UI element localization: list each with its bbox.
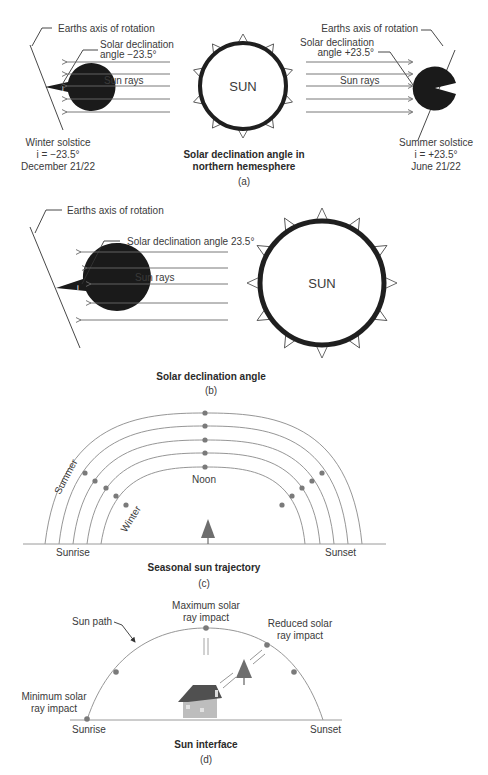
summer-solstice-caption-1: Summer solstice: [399, 137, 473, 148]
axis-leader-b: [35, 210, 62, 233]
max-impact-label-1: Maximum solar: [172, 600, 240, 611]
panel-d-title: Sun interface: [174, 739, 238, 750]
axis-leader-left: [32, 28, 52, 46]
axis-label-right: Earths axis of rotation: [321, 23, 418, 34]
sun-rays-label-left: Sun rays: [104, 75, 143, 86]
declination-leader-right: [378, 52, 413, 85]
sun-a: SUN: [192, 34, 294, 138]
panel-a-sublabel: (a): [238, 176, 250, 187]
earth-summer: [413, 50, 456, 140]
sun-label-a: SUN: [229, 79, 256, 94]
sun-path-label: Sun path: [72, 616, 112, 627]
summer-solstice-caption-2: i = +23.5°: [415, 149, 458, 160]
axis-label-left: Earths axis of rotation: [58, 23, 155, 34]
noon-label: Noon: [192, 474, 216, 485]
panel-c: Summer Winter Noon Sunrise Sunset Season…: [23, 410, 386, 589]
reduced-impact-label-1: Reduced solar: [268, 618, 333, 629]
sunrise-label-c: Sunrise: [56, 547, 90, 558]
sun-rays-right: [306, 62, 412, 112]
house-icon: [178, 685, 222, 718]
axis-leader-right: [421, 30, 443, 46]
noon-ray-arrows: [204, 638, 208, 655]
axis-label-b: Earths axis of rotation: [67, 205, 164, 216]
winter-label: Winter: [118, 503, 143, 534]
tree-icon-d: [236, 659, 252, 685]
min-impact-label-1: Minimum solar: [21, 691, 87, 702]
sun-path-leader: [114, 622, 135, 642]
min-impact-label-2: ray impact: [31, 703, 77, 714]
declination-label-left-2: angle −23.5°: [100, 49, 157, 60]
panel-a-title-1: Solar declination angle in: [183, 149, 304, 160]
summer-label: Summer: [52, 457, 80, 496]
sun-rays-label-b: Sun rays: [135, 272, 174, 283]
solar-diagram: i Earths axis of rotation Solar declinat…: [0, 0, 488, 775]
sunrise-label-d: Sunrise: [72, 724, 106, 735]
sun-label-b: SUN: [308, 276, 335, 291]
max-impact-label-2: ray impact: [183, 612, 229, 623]
declination-label-b: Solar declination angle 23.5°: [127, 236, 254, 247]
panel-b: i Earths axis of rotation Solar declinat…: [30, 205, 397, 396]
panel-d: Sun path Maximum solar ray impact Reduce…: [21, 600, 342, 765]
sun-rays-label-right: Sun rays: [340, 75, 379, 86]
sunset-label-c: Sunset: [325, 547, 356, 558]
winter-solstice-caption-1: Winter solstice: [25, 137, 90, 148]
panel-d-sublabel: (d): [200, 754, 212, 765]
winter-solstice-caption-2: i = −23.5°: [37, 149, 80, 160]
tree-icon: [201, 519, 215, 544]
panel-c-sublabel: (c): [198, 578, 210, 589]
reduced-impact-label-2: ray impact: [277, 630, 323, 641]
panel-a-title-2: northern hemesphere: [193, 161, 296, 172]
panel-b-sublabel: (b): [205, 385, 217, 396]
panel-b-title: Solar declination angle: [156, 371, 266, 382]
sun-b: SUN: [247, 208, 397, 358]
panel-a: i Earths axis of rotation Solar declinat…: [21, 23, 473, 187]
svg-text:i: i: [77, 283, 79, 292]
winter-solstice-caption-3: December 21/22: [21, 161, 95, 172]
summer-solstice-caption-3: June 21/22: [411, 161, 461, 172]
declination-label-right-2: angle +23.5°: [317, 47, 374, 58]
panel-c-title: Seasonal sun trajectory: [148, 562, 261, 573]
sunset-label-d: Sunset: [310, 724, 341, 735]
